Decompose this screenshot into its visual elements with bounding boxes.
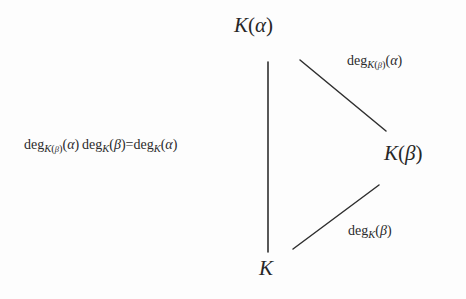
arg-alpha: (α) [385, 53, 402, 68]
node-k-alpha: K(α) [234, 15, 273, 36]
deg-function: deg [347, 53, 367, 68]
arg-alpha-3: (α) [161, 137, 178, 152]
deg-function: deg [348, 223, 368, 238]
subscript-k-beta-1: K(β) [44, 143, 62, 154]
deg-function-1: deg [24, 137, 44, 152]
arg-beta: (β) [375, 223, 391, 238]
edge-label-bottom-right: degK(β) [348, 224, 392, 241]
node-k-beta: K(β) [384, 143, 422, 164]
node-k: K [259, 258, 273, 279]
diagram-canvas: K(α) K(β) K degK(β)(α) degK(β)=degK(α) d… [0, 0, 466, 299]
deg-function-3: deg [133, 137, 153, 152]
node-k-beta-label: K(β) [384, 141, 422, 165]
arg-beta-2: (β) [109, 137, 125, 152]
subscript-k-3: K [154, 143, 161, 154]
deg-function-2: deg [82, 137, 102, 152]
node-k-alpha-label: K(α) [234, 13, 273, 37]
node-k-label: K [259, 256, 273, 280]
arg-alpha-1: (α) [62, 137, 79, 152]
edge-label-top-right: degK(β)(α) [347, 54, 402, 71]
edge-label-left-equation: degK(β)(α) degK(β)=degK(α) [24, 138, 177, 155]
subscript-k-beta: K(β) [367, 59, 385, 70]
